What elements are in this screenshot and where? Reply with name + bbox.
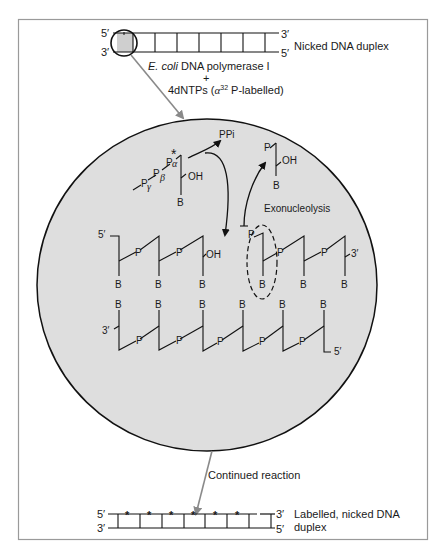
p-beta: P xyxy=(153,168,160,179)
upper-3prime: 3′ xyxy=(351,248,359,259)
lower-base-4: B xyxy=(239,299,246,310)
beta-symbol: β xyxy=(159,172,165,183)
upper-p-5: P xyxy=(321,247,328,258)
ppi-label: PPi xyxy=(219,129,235,140)
top-duplex-5prime-right: 5′ xyxy=(281,47,289,59)
upper-p-3: P xyxy=(248,229,255,240)
top-duplex-5prime-left: 5′ xyxy=(101,27,109,39)
label-star-6: * xyxy=(235,509,240,521)
lower-p-5: P xyxy=(299,336,306,347)
reagents-label: E. coli DNA polymerase I + 4dNTPs (α32 P… xyxy=(148,60,284,96)
top-duplex-3prime-right: 3′ xyxy=(281,28,289,40)
dntp-isotope: 32 xyxy=(220,84,228,91)
enzyme-species: E. coli xyxy=(148,60,179,72)
lower-base-3: B xyxy=(199,299,206,310)
lower-base-2: B xyxy=(155,299,162,310)
label-star: * xyxy=(171,146,177,162)
bottom-duplex-label-line1: Labelled, nicked DNA xyxy=(294,508,400,520)
label-star-5: * xyxy=(213,509,218,521)
upper-base-3: B xyxy=(199,279,206,290)
incoming-oh: OH xyxy=(188,171,203,182)
dntp-prefix: 4dNTPs ( xyxy=(168,84,215,96)
label-star-1: * xyxy=(125,509,130,521)
top-duplex-3prime-left: 3′ xyxy=(101,46,109,58)
upper-base-1: B xyxy=(115,279,122,290)
continued-reaction-arrow xyxy=(196,451,212,514)
continued-reaction-label: Continued reaction xyxy=(208,469,300,481)
label-star-3: * xyxy=(169,509,174,521)
released-oh: OH xyxy=(282,155,297,166)
lower-p-3: P xyxy=(217,336,224,347)
incoming-base: B xyxy=(177,197,184,208)
enzyme-name: DNA polymerase I xyxy=(178,60,270,72)
label-star-2: * xyxy=(147,509,152,521)
upper-3-oh: OH xyxy=(206,249,221,260)
lower-p-2: P xyxy=(176,335,183,346)
lower-base-6: B xyxy=(320,299,327,310)
upper-5prime: 5′ xyxy=(98,229,106,240)
released-base: B xyxy=(273,180,280,191)
lower-3prime: 3′ xyxy=(102,325,110,336)
upper-base-4: B xyxy=(259,279,266,290)
svg-text:4dNTPs (α32 P-labelled): 4dNTPs (α32 P-labelled) xyxy=(168,84,284,96)
bottom-duplex-5prime-right: 5′ xyxy=(276,523,284,535)
upper-p-4: P xyxy=(277,247,284,258)
top-duplex-label: Nicked DNA duplex xyxy=(294,40,389,52)
plus-sign: + xyxy=(203,72,209,84)
upper-p-1: P xyxy=(135,247,142,258)
label-star-4: * xyxy=(191,509,196,521)
lower-base-5: B xyxy=(279,299,286,310)
svg-text:E. coli DNA polymerase I: E. coli DNA polymerase I xyxy=(148,60,270,72)
upper-p-2: P xyxy=(176,247,183,258)
upper-base-2: B xyxy=(155,279,162,290)
upper-base-5: B xyxy=(300,279,307,290)
bottom-duplex-3prime-right: 3′ xyxy=(276,508,284,520)
top-dna-duplex: 5′ 3′ 3′ 5′ Nicked DNA duplex xyxy=(101,27,389,59)
diagram-stage: 5′ 3′ 3′ 5′ Nicked DNA duplex E. coli DN… xyxy=(0,0,447,560)
exonucleolysis-label: Exonucleolysis xyxy=(264,203,330,214)
lower-p-4: P xyxy=(259,336,266,347)
upper-base-6: B xyxy=(341,279,348,290)
bottom-duplex-3prime-left: 3′ xyxy=(97,522,105,534)
lower-5prime: 5′ xyxy=(334,346,342,357)
dntp-suffix: P-labelled) xyxy=(228,84,284,96)
bottom-duplex-label-line2: duplex xyxy=(294,521,327,533)
released-p: P xyxy=(264,142,271,153)
bottom-duplex-5prime-left: 5′ xyxy=(97,508,105,520)
inset-circle xyxy=(37,119,377,451)
bottom-dna-duplex: * * * * * * 5′ 3′ 3′ 5′ Labelled, nicked… xyxy=(97,508,400,535)
lower-p-1: P xyxy=(136,335,143,346)
lower-base-1: B xyxy=(115,299,122,310)
